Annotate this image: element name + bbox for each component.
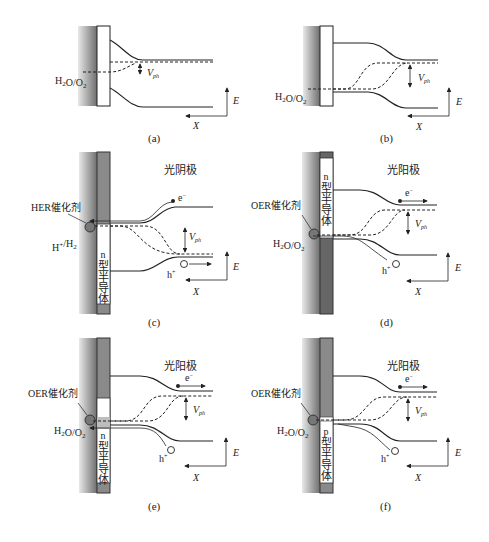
- electrolyte-shade: [79, 152, 97, 314]
- panel-e: n 型 半 导 体 OER催化剂 H2O/O2 光阳极 e− h+ Vph E …: [28, 338, 239, 513]
- electron-dot: [176, 384, 180, 388]
- hole-circle: [181, 261, 188, 268]
- redox-couple-label: H+/H2: [52, 238, 77, 253]
- panel-caption: (a): [148, 132, 161, 145]
- redox-couple-label: H2O/O2: [273, 238, 305, 253]
- valence-band: [333, 92, 438, 108]
- fermi-level-dark: [110, 396, 183, 421]
- redox-couple-label: H2O/O2: [277, 425, 309, 440]
- position-axis-label: X: [192, 472, 200, 483]
- semiconductor-type: n: [101, 249, 106, 260]
- panel-d: n 型 半 导 体 OER催化剂 H2O/O2 光阳极 e− h+ Vph E …: [251, 152, 461, 329]
- hole-label: h+: [159, 453, 168, 464]
- her-catalyst-particle: [85, 222, 95, 232]
- semiconductor-type: p: [324, 426, 329, 437]
- electrolyte-shade: [78, 26, 97, 106]
- position-axis-label: X: [415, 121, 423, 132]
- energy-axis-label: E: [232, 261, 239, 272]
- vph-label: Vph: [418, 72, 430, 84]
- vph-label: Vph: [189, 231, 201, 243]
- electron-dot: [398, 385, 402, 389]
- panel-title: 光阳极: [164, 359, 197, 372]
- position-axis-label: X: [414, 286, 422, 297]
- fermi-level-dark: [333, 397, 407, 420]
- energy-axis-label: E: [232, 95, 239, 106]
- vph-label: Vph: [193, 404, 205, 416]
- panel-a: Vph H2O/O2 E X (a): [55, 26, 239, 145]
- electron-label: e−: [405, 187, 413, 198]
- valence-band: [333, 239, 437, 255]
- conduction-band: [333, 43, 438, 60]
- semiconductor-char: 体: [321, 469, 332, 482]
- semiconductor-char: 体: [321, 214, 332, 227]
- redox-couple-label: H2O/O2: [54, 425, 86, 440]
- hole-path: [338, 424, 390, 450]
- vph-label: Vph: [147, 67, 159, 79]
- redox-couple-label: H2O/O2: [55, 75, 87, 90]
- energy-axis-label: E: [232, 447, 239, 458]
- panel-caption: (c): [148, 316, 161, 329]
- catalyst-label: OER催化剂: [251, 199, 301, 211]
- energy-axis-label: E: [454, 447, 461, 458]
- energy-axis-label: E: [454, 262, 461, 273]
- panel-c: n 型 半 导 体 HER催化剂 H+/H2 光阴极 e− Vph h+ E X…: [31, 152, 239, 329]
- panel-caption: (f): [380, 500, 391, 513]
- electron-label: e−: [178, 192, 186, 203]
- hole-label: h+: [382, 265, 391, 276]
- hole-circle: [168, 447, 175, 454]
- catalyst-interface-layer: [97, 417, 110, 429]
- electron-dot: [398, 199, 402, 203]
- position-axis-label: X: [414, 472, 422, 483]
- redox-couple-label: H2O/O2: [275, 91, 307, 106]
- panel-f: p 型 半 导 体 OER催化剂 H2O/O2 光阳极 e− h+ Vph E …: [251, 338, 461, 513]
- position-axis-label: X: [192, 120, 200, 131]
- hole-label: h+: [167, 269, 176, 280]
- semiconductor-type: n: [324, 171, 329, 182]
- semiconductor-char: 体: [98, 473, 109, 486]
- fermi-level-dark: [333, 210, 405, 235]
- panel-title: 光阳极: [387, 163, 420, 176]
- fermi-level-dark: [110, 226, 180, 254]
- catalyst-label: OER催化剂: [28, 387, 78, 399]
- panel-title: 光阴极: [164, 163, 197, 176]
- electron-label: e−: [405, 373, 413, 384]
- position-axis-label: X: [192, 286, 200, 297]
- oer-catalyst-particle: [85, 415, 95, 425]
- panel-b: Vph H2O/O2 E X (b): [275, 26, 462, 145]
- valence-band: [333, 424, 437, 441]
- hole-circle: [393, 261, 400, 268]
- band-diagram-figure: Vph H2O/O2 E X (a) Vph H2O/O2 E X (b) n …: [0, 0, 489, 542]
- panel-caption: (e): [148, 500, 161, 513]
- electrode-layer: [320, 26, 333, 106]
- panel-title: 光阳极: [387, 359, 420, 372]
- hole-label: h+: [381, 453, 390, 464]
- electrolyte-shade: [303, 26, 320, 106]
- vph-label: Vph: [415, 218, 427, 230]
- oer-catalyst-particle: [309, 229, 319, 239]
- panel-caption: (b): [380, 132, 393, 145]
- electron-dot: [171, 199, 175, 203]
- conduction-band: [333, 376, 437, 392]
- electrode-layer: [97, 26, 110, 106]
- energy-axis-label: E: [455, 96, 462, 107]
- vph-label: Vph: [415, 405, 427, 417]
- semiconductor-type: n: [101, 430, 106, 441]
- panel-caption: (d): [380, 316, 393, 329]
- conduction-band: [110, 40, 213, 60]
- conduction-band: [333, 190, 437, 205]
- fermi-level-dark: [333, 63, 408, 89]
- electron-label: e−: [185, 372, 193, 383]
- catalyst-label: OER催化剂: [251, 387, 301, 399]
- valence-band: [110, 88, 213, 107]
- conduction-band: [110, 376, 213, 391]
- catalyst-label: HER催化剂: [31, 201, 81, 213]
- semiconductor-char: 体: [98, 292, 109, 305]
- hole-circle: [392, 448, 399, 455]
